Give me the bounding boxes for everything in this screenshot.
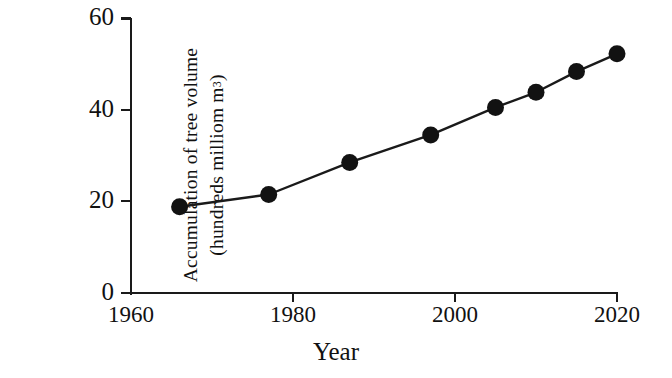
data-point (422, 126, 439, 143)
plot-area: 0204060 1960198020002020 Year (0, 0, 672, 378)
data-point (260, 186, 277, 203)
data-point (341, 154, 358, 171)
data-point (171, 198, 188, 215)
x-axis-title: Year (0, 339, 672, 364)
data-point (487, 99, 504, 116)
data-point (568, 63, 585, 80)
series-markers (171, 45, 625, 215)
data-point (528, 84, 545, 101)
data-point (609, 45, 626, 62)
series-line (180, 54, 617, 207)
chart-figure: Accumulation of tree volume (hundreds mi… (0, 0, 672, 378)
data-series-layer (0, 0, 672, 378)
